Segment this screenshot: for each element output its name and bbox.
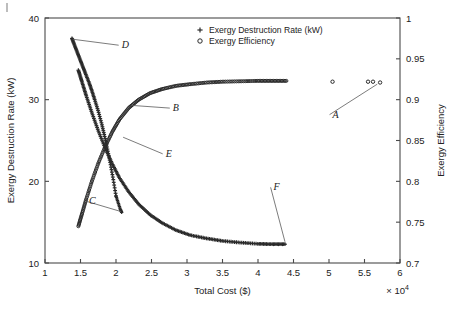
annotation-label-C: C (89, 195, 96, 206)
scan-artifact (6, 3, 8, 12)
y-tick-label: 20 (28, 176, 39, 187)
x-tick-label: 6 (397, 267, 402, 278)
y2-tick-label: 0.7 (406, 258, 419, 269)
x-axis-title: Total Cost ($) (194, 285, 251, 296)
x-tick-label: 4 (255, 267, 260, 278)
x-tick-label: 3 (184, 267, 189, 278)
annotation-leader-B (132, 105, 170, 108)
x-tick-label: 4.5 (287, 267, 300, 278)
y-tick-label: 30 (28, 94, 39, 105)
y-tick-label: 10 (28, 258, 39, 269)
plot-frame (45, 18, 400, 263)
data-marker-circle (378, 81, 381, 84)
legend-label-0: Exergy Destruction Rate (kW) (209, 25, 323, 35)
x-tick-label: 3.5 (216, 267, 229, 278)
x-tick-label: 2 (113, 267, 118, 278)
annotation-leader-E (123, 137, 163, 154)
annotation-label-F: F (273, 181, 281, 192)
annotation-label-B: B (173, 102, 179, 113)
data-marker-circle (366, 80, 369, 83)
y2-tick-label: 0.8 (406, 176, 419, 187)
y2-axis-title: Exergy Efficiency (435, 104, 446, 177)
y2-tick-label: 0.85 (406, 135, 425, 146)
exergy-chart: 11.522.533.544.555.56102030400.70.750.80… (0, 0, 455, 318)
x-tick-label: 1.5 (74, 267, 87, 278)
x-tick-label: 2.5 (145, 267, 158, 278)
figure-container: 11.522.533.544.555.56102030400.70.750.80… (0, 0, 455, 318)
annotation-label-D: D (121, 39, 130, 50)
legend-label-1: Exergy Efficiency (209, 36, 275, 46)
data-marker-circle (198, 39, 202, 43)
data-marker-circle (371, 80, 374, 83)
y-axis-title: Exergy Destruction Rate (kW) (5, 78, 16, 204)
annotation-label-E: E (165, 148, 172, 159)
y-tick-label: 40 (28, 13, 39, 24)
x-tick-label: 1 (42, 267, 47, 278)
x-tick-label: 5 (326, 267, 331, 278)
y2-tick-label: 1 (406, 13, 411, 24)
y2-tick-label: 0.75 (406, 217, 425, 228)
x-tick-label: 5.5 (358, 267, 371, 278)
y2-tick-label: 0.9 (406, 94, 419, 105)
data-marker-circle (331, 80, 334, 83)
annotation-leader-F (271, 187, 285, 241)
y2-tick-label: 0.95 (406, 53, 425, 64)
x-multiplier: × 104 (386, 284, 409, 296)
annotation-leader-D (73, 39, 119, 45)
annotation-label-A: A (332, 109, 340, 120)
